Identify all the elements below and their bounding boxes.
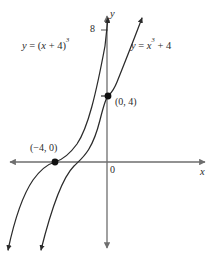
- curve-left-eq-exponent: 3: [66, 36, 69, 43]
- y-axis-tick-label-8: 8: [90, 24, 95, 34]
- curve-right-eq-variable: x: [147, 40, 152, 51]
- x-axis-label: x: [200, 167, 205, 178]
- origin-label: 0: [110, 165, 115, 175]
- graph-figure: y = (x + 4)3 y = x3 + 4 (−4, 0) (0, 4) 8…: [0, 0, 214, 264]
- curve-right: [41, 18, 142, 250]
- curve-left-eq-operator: = (: [27, 40, 42, 51]
- point-neg4-0-label: (−4, 0): [30, 143, 57, 153]
- point-neg4-0-dot: [52, 159, 59, 166]
- curve-right-eq-exponent: 3: [152, 36, 155, 43]
- curve-right-eq-rest: + 4: [155, 40, 171, 51]
- curve-left-equation-label: y = (x + 4)3: [22, 41, 69, 52]
- point-0-4-label: (0, 4): [115, 97, 137, 107]
- point-0-4-dot: [105, 93, 112, 100]
- y-axis-label: y: [110, 9, 115, 20]
- curve-left-eq-rest: + 4): [46, 40, 66, 51]
- curve-left: [8, 18, 108, 250]
- curve-right-equation-label: y = x3 + 4: [131, 41, 171, 52]
- curve-right-eq-operator: =: [136, 40, 147, 51]
